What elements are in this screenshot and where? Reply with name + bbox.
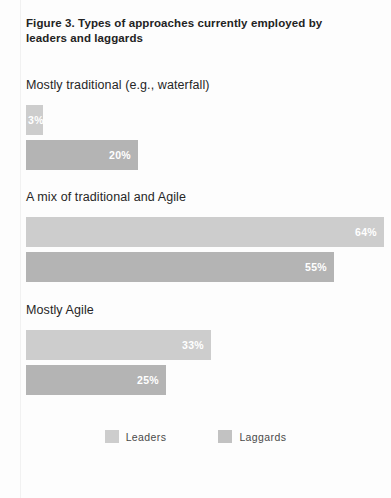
scan-artifact-line [20, 0, 21, 498]
bar-row-laggards: 25% [26, 365, 166, 395]
figure-title: Figure 3. Types of approaches currently … [26, 16, 356, 46]
legend-label: Leaders [126, 431, 167, 443]
bar-leaders: 64% [26, 217, 384, 247]
bar-leaders: 33% [26, 330, 211, 360]
bar-leaders: 3% [26, 105, 43, 135]
bar-value-label: 64% [355, 227, 377, 238]
group-label: A mix of traditional and Agile [26, 190, 186, 204]
bar-value-label: 55% [305, 262, 327, 273]
bar-row-leaders: 3% [26, 105, 43, 135]
bar-value-label: 25% [137, 375, 159, 386]
group-label: Mostly traditional (e.g., waterfall) [26, 78, 210, 92]
chart-legend: Leaders Laggards [0, 430, 391, 443]
bar-value-label: 33% [182, 340, 204, 351]
bar-row-leaders: 33% [26, 330, 211, 360]
bar-row-leaders: 64% [26, 217, 384, 247]
bar-value-label: 3% [28, 115, 44, 126]
group-label: Mostly Agile [26, 303, 94, 317]
legend-swatch-icon [218, 430, 232, 443]
bar-laggards: 55% [26, 252, 334, 282]
bar-row-laggards: 55% [26, 252, 334, 282]
legend-label: Laggards [239, 431, 286, 443]
bar-laggards: 20% [26, 140, 138, 170]
figure-container: Figure 3. Types of approaches currently … [0, 0, 391, 498]
legend-item-leaders: Leaders [105, 430, 167, 443]
bar-row-laggards: 20% [26, 140, 138, 170]
bar-laggards: 25% [26, 365, 166, 395]
legend-item-laggards: Laggards [218, 430, 286, 443]
legend-swatch-icon [105, 430, 119, 443]
bar-value-label: 20% [109, 150, 131, 161]
